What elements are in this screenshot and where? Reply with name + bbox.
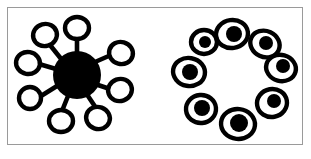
spoke-2 — [50, 45, 62, 60]
satellite-vesicle-6 — [83, 104, 113, 133]
right-panel-ring-cluster — [171, 18, 299, 141]
cell-nucleus-2 — [259, 36, 273, 50]
cell-nucleus-6 — [194, 100, 210, 116]
figure-root: Central dark mass with nine outlined sat… — [0, 0, 311, 159]
cell-nucleus-7 — [182, 64, 198, 80]
satellite-vesicle-2 — [31, 21, 60, 48]
spoke-4 — [41, 86, 57, 96]
satellite-vesicle-4 — [19, 87, 41, 109]
cell-nucleus-5 — [230, 114, 248, 132]
cell-nucleus-1 — [226, 26, 242, 42]
satellite-vesicle-5 — [49, 110, 73, 132]
satellite-vesicle-8 — [107, 39, 136, 66]
satellite-vesicle-3 — [14, 50, 41, 76]
satellite-vesicle-1 — [65, 17, 89, 39]
satellite-vesicle-7 — [105, 76, 135, 105]
cell-nucleus-4 — [267, 94, 281, 108]
figure-canvas — [0, 0, 311, 159]
central-mass — [53, 51, 101, 99]
left-panel-hub-and-spoke — [14, 17, 135, 132]
cell-nucleus-3 — [276, 59, 290, 73]
cell-nucleus-8 — [199, 36, 211, 48]
